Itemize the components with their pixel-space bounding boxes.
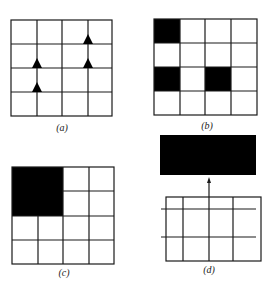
- filled-cell: [205, 67, 231, 91]
- figure: (a) (b) (c): [0, 0, 267, 287]
- panel-a-label: (a): [56, 122, 68, 134]
- filled-block: [12, 167, 63, 216]
- top-block: [160, 135, 256, 175]
- filled-cell: [154, 67, 180, 91]
- panel-c-label: (c): [58, 267, 70, 279]
- filled-cell: [154, 19, 180, 43]
- panel-d-label: (d): [203, 264, 215, 276]
- panel-b-label: (b): [201, 120, 213, 132]
